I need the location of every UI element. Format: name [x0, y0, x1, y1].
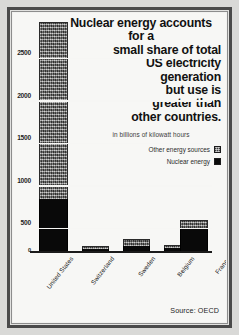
y-tick-2000: 2000	[13, 92, 31, 99]
chart-plate: Nuclear energy accounts for a small shar…	[13, 13, 226, 322]
bar-united-states	[39, 22, 68, 252]
bar-segment-other-united-states	[39, 22, 68, 200]
bar-segment-nuclear-united-states	[39, 199, 68, 251]
bar-group	[30, 13, 212, 251]
source-attribution: Source: OECD	[170, 306, 219, 315]
y-tick-500: 500	[13, 219, 31, 226]
x-label-sweden: Sweden	[137, 255, 157, 278]
bar-segment-nuclear-france	[180, 229, 208, 251]
bar-segment-other-france	[180, 220, 208, 229]
y-axis-tick-labels: 2500 2000 1500 1000 500 0	[13, 13, 31, 322]
bar-segment-other-sweden	[123, 239, 150, 246]
x-label-belgium: Belgium	[176, 255, 196, 278]
y-tick-2500: 2500	[13, 49, 31, 56]
bar-france	[180, 220, 208, 251]
y-tick-1500: 1500	[13, 134, 31, 141]
y-tick-0: 0	[13, 247, 31, 253]
bar-sweden	[123, 239, 150, 251]
x-label-united-states: United States	[45, 255, 75, 290]
plot-area: 2500 2000 1500 1000 500 0	[13, 13, 226, 322]
y-tick-1000: 1000	[13, 177, 31, 184]
x-label-switzerland: Switzerland	[89, 255, 115, 286]
x-label-france: France	[214, 255, 226, 275]
figure-container: Nuclear energy accounts for a small shar…	[0, 0, 239, 335]
x-axis-tick-labels: United States Switzerland Sweden Belgium…	[30, 253, 212, 305]
